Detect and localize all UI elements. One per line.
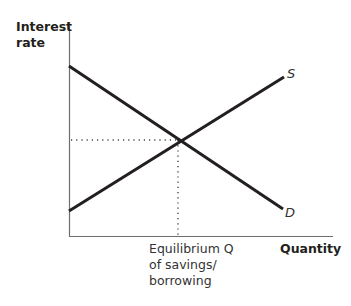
equilibrium-label-line1: Equilibrium Q [149,241,234,257]
x-axis-label: Quantity [280,241,341,257]
supply-label: S [287,66,295,82]
y-axis-label: Interest rate [16,19,72,51]
equilibrium-label: Equilibrium Q of savings/ borrowing [149,241,234,289]
y-axis-label-line1: Interest [16,19,72,35]
supply-curve [69,77,284,211]
equilibrium-label-line3: borrowing [149,273,234,289]
demand-label: D [285,205,295,221]
demand-curve [69,66,283,209]
equilibrium-label-line2: of savings/ [149,257,234,273]
y-axis-label-line2: rate [16,35,72,51]
